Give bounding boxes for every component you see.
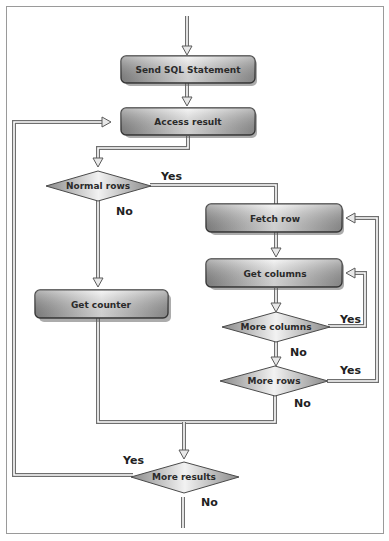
edge-more-rows-yes-to-fetch-row [327, 213, 377, 381]
node-more-columns-label: More columns [241, 322, 312, 332]
node-more-results: More results [131, 462, 239, 493]
label-more-rows-yes: Yes [339, 364, 361, 377]
edge-normal-rows-no-to-get-counter [93, 201, 103, 287]
label-more-columns-no: No [290, 346, 307, 359]
node-access-result-label: Access result [154, 117, 222, 127]
label-more-results-no: No [201, 496, 218, 509]
node-normal-rows-label: Normal rows [66, 181, 130, 191]
flowchart-canvas: Send SQL Statement Access result Normal … [0, 0, 389, 541]
label-more-results-yes: Yes [122, 454, 144, 467]
edge-fetch-row-to-get-columns [271, 232, 281, 257]
node-access-result: Access result [121, 108, 257, 138]
node-fetch-row: Fetch row [206, 204, 344, 235]
node-send-sql: Send SQL Statement [121, 56, 257, 86]
edge-more-columns-no-to-more-rows [271, 342, 281, 366]
node-get-counter: Get counter [35, 290, 171, 322]
node-more-results-label: More results [152, 472, 216, 482]
edge-access-result-to-normal-rows [93, 136, 188, 167]
node-more-rows-label: More rows [247, 376, 300, 386]
node-send-sql-label: Send SQL Statement [135, 65, 241, 75]
node-get-counter-label: Get counter [71, 300, 132, 310]
node-more-rows: More rows [220, 366, 328, 396]
node-normal-rows: Normal rows [46, 171, 151, 201]
edge-normal-rows-yes-to-fetch-row [150, 185, 276, 204]
label-normal-rows-yes: Yes [160, 170, 182, 183]
node-fetch-row-label: Fetch row [250, 214, 300, 224]
node-get-columns-label: Get columns [243, 269, 306, 279]
edge-merge-to-more-results [179, 422, 189, 459]
label-more-rows-no: No [294, 397, 311, 410]
edge-send-sql-to-access-result [182, 83, 192, 106]
edge-start-to-send-sql [182, 16, 192, 55]
label-more-columns-yes: Yes [339, 313, 361, 326]
edge-get-columns-to-more-columns [271, 288, 281, 312]
label-normal-rows-no: No [116, 205, 133, 218]
node-get-columns: Get columns [206, 259, 344, 290]
node-more-columns: More columns [222, 312, 330, 342]
